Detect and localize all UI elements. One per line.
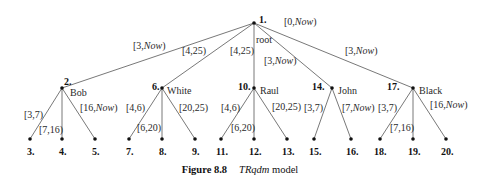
leaf-11-label: 11. [216,147,228,157]
node-4-dot [60,137,64,141]
leaf-15-label: 15. [309,147,322,157]
node-12-dot [252,137,256,141]
figure-title: TRqdm [239,164,269,175]
node-2-name: Bob [70,88,87,98]
edge-6-7-interval: [4,6) [126,103,145,113]
leaf-13-label: 13. [282,147,295,157]
edge-1-2-interval: [3,Now) [133,41,166,51]
edge-6-8-interval: [6,20) [137,123,161,133]
figure-caption: Figure 8.8TRqdm model [0,164,480,175]
node-14-label: 14. [312,82,325,92]
node-6-label: 6. [152,82,160,92]
node-17-dot [411,86,415,90]
node-1-label: 1. [259,15,267,25]
edge-10-11-interval: [4,6) [221,103,240,113]
leaf-20-label: 20. [441,147,454,157]
edge-1-2 [62,23,254,88]
figure-number: Figure 8.8 [182,164,227,175]
node-16-dot [349,137,353,141]
node-9-dot [193,137,197,141]
node-13-dot [285,137,289,141]
node-5-dot [93,137,97,141]
edge-1-6-interval: [4,25) [182,46,206,56]
edge-10-12-interval: [6,20) [231,123,255,133]
edge-1-17-interval: [3,Now) [345,46,378,56]
node-8-dot [160,137,164,141]
leaf-19-label: 19. [408,147,421,157]
node-15-dot [312,137,316,141]
node-10-label: 10. [238,82,251,92]
leaf-3-label: 3. [27,147,35,157]
leaf-18-label: 18. [374,147,387,157]
node-18-dot [378,137,382,141]
node-7-dot [127,137,131,141]
node-11-dot [219,137,223,141]
edge-17-18-interval: [3,7) [378,103,397,113]
leaf-5-label: 5. [92,147,100,157]
node-6-name: White [167,86,191,96]
leaf-4-label: 4. [59,147,67,157]
edge-2-4-interval: [7,16) [39,125,63,135]
edge-17-20-interval: [16,Now) [430,100,468,110]
node-1-dot [252,21,256,25]
tree-diagram: 1. 2. 6. 10. 14. 17. root Bob White Raul… [0,0,480,177]
node-14-name: John [338,86,357,96]
edge-17-19-interval: [7,16) [390,123,414,133]
node-1-name: root [256,35,272,45]
edge-2-3-interval: [3,7) [24,110,43,120]
node-10-dot [252,86,256,90]
leaf-7-label: 7. [126,147,134,157]
leaf-12-label: 12. [249,147,262,157]
node-3-dot [28,137,32,141]
node-19-dot [411,137,415,141]
node-17-label: 17. [387,82,400,92]
edge-1-10-interval: [4,25) [230,46,254,56]
leaf-9-label: 9. [192,147,200,157]
node-2-label: 2. [64,77,72,87]
edge-14-15-interval: [3,7) [304,103,323,113]
root-interval: [0,Now) [284,17,317,27]
edge-2-5-interval: [16,Now) [80,103,118,113]
node-10-name: Raul [260,86,279,96]
figure-suffix: model [272,164,298,175]
node-17-name: Black [419,86,442,96]
leaf-8-label: 8. [159,147,167,157]
node-6-dot [160,86,164,90]
edge-14-15 [314,88,332,139]
node-20-dot [444,137,448,141]
node-14-dot [330,86,334,90]
edge-10-13-interval: [20,25) [272,102,301,112]
leaf-16-label: 16. [346,147,359,157]
edge-6-9-interval: [20,25) [179,103,208,113]
edge-14-16-interval: [7,Now) [342,103,375,113]
edge-1-14-interval: [3,Now) [264,56,297,66]
